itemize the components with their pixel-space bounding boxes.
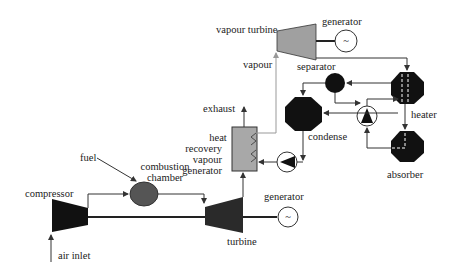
fuel-label: fuel	[80, 152, 96, 163]
vapour-label: vapour	[243, 59, 273, 70]
absorber-to-pump-pipe	[367, 128, 391, 148]
absorber-icon	[391, 131, 424, 162]
separator-liquid-pipe	[335, 93, 360, 103]
vapour-generator-label: generator	[322, 16, 362, 27]
turbine-label: turbine	[227, 236, 257, 247]
heat-recovery-vapour-generator	[232, 127, 257, 171]
hrvg-label-1: heat	[209, 132, 227, 143]
combustion-to-turbine-pipe	[158, 194, 204, 203]
compressor-to-combustion-pipe	[88, 194, 128, 208]
separator-to-condenser-pipe	[303, 83, 325, 95]
condenser-label: condense	[308, 131, 347, 142]
process-diagram: compressor air inlet combustion chamber …	[0, 0, 461, 274]
compressor-icon	[52, 199, 88, 232]
condenser-icon	[285, 97, 322, 131]
vapour-turbine-label: vapour turbine	[216, 24, 278, 35]
heater-label: heater	[411, 109, 437, 120]
combustion-label-2: chamber	[147, 172, 184, 183]
hrvg-label-3: vapour	[193, 154, 223, 165]
separator-label: separator	[297, 61, 336, 72]
vapour-turbine-icon	[277, 24, 316, 60]
generator-symbol: ~	[285, 211, 291, 222]
pump-to-heater-pipe	[367, 99, 398, 106]
combustion-chamber-icon	[130, 182, 158, 206]
absorber-label: absorber	[387, 169, 424, 180]
compressor-label: compressor	[25, 188, 74, 199]
hrvg-label-2: recovery	[185, 143, 222, 154]
gas-turbine-icon	[205, 197, 243, 233]
hrvg-label-4: generator	[182, 165, 222, 176]
fuel-arrow	[97, 158, 136, 181]
generator-symbol-2: ~	[343, 35, 349, 46]
air-inlet-label: air inlet	[58, 250, 90, 261]
exhaust-label: exhaust	[203, 103, 235, 114]
gas-generator-label: generator	[264, 191, 304, 202]
separator-icon	[325, 73, 345, 93]
